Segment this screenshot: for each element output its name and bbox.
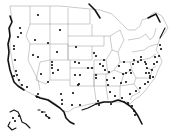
location-marker — [87, 67, 89, 69]
location-marker — [146, 67, 148, 69]
location-marker — [156, 61, 158, 63]
location-marker — [71, 104, 73, 106]
location-marker — [103, 59, 105, 61]
location-marker — [122, 73, 124, 75]
location-marker — [32, 54, 34, 56]
location-marker — [18, 115, 20, 117]
location-marker — [40, 73, 42, 75]
location-marker — [144, 83, 146, 85]
location-marker — [51, 67, 53, 69]
location-marker — [47, 81, 49, 83]
location-marker — [130, 72, 132, 74]
location-marker — [160, 48, 162, 50]
location-marker — [34, 39, 36, 41]
location-marker — [17, 36, 19, 38]
location-marker — [144, 61, 146, 63]
location-marker — [18, 79, 20, 81]
location-marker — [104, 69, 106, 71]
location-marker — [97, 100, 99, 102]
location-marker — [59, 29, 61, 31]
location-marker — [12, 117, 14, 119]
location-marker — [132, 63, 134, 65]
location-marker — [48, 117, 50, 119]
location-marker — [60, 93, 62, 95]
location-marker — [159, 44, 161, 46]
location-marker — [147, 81, 149, 83]
location-marker — [74, 61, 76, 63]
location-marker — [47, 42, 49, 44]
location-marker — [140, 56, 142, 58]
location-marker — [133, 110, 135, 112]
location-marker — [72, 92, 74, 94]
location-marker — [110, 103, 112, 105]
location-marker — [148, 72, 150, 74]
location-marker — [37, 14, 39, 16]
location-marker — [121, 97, 123, 99]
location-marker — [52, 72, 54, 74]
location-marker — [154, 56, 156, 58]
location-marker — [79, 74, 81, 76]
location-marker — [149, 77, 151, 79]
location-marker — [51, 64, 53, 66]
location-marker — [14, 59, 16, 61]
us-map — [0, 0, 172, 136]
location-marker — [134, 114, 136, 116]
location-marker — [75, 46, 77, 48]
location-marker — [13, 48, 15, 50]
location-marker — [151, 69, 153, 71]
location-marker — [152, 76, 154, 78]
location-marker — [26, 86, 28, 88]
location-marker — [131, 105, 133, 107]
location-marker — [41, 111, 43, 113]
location-marker — [56, 51, 58, 53]
location-marker — [129, 69, 131, 71]
location-marker — [91, 67, 93, 69]
location-marker — [125, 81, 127, 83]
location-marker — [95, 74, 97, 76]
location-marker — [149, 75, 151, 77]
location-marker — [13, 45, 15, 47]
location-marker — [36, 96, 38, 98]
location-marker — [127, 102, 129, 104]
location-marker — [120, 82, 122, 84]
location-marker — [93, 52, 95, 54]
location-marker — [16, 74, 18, 76]
location-marker — [140, 59, 142, 61]
location-marker — [129, 93, 131, 95]
location-marker — [123, 61, 125, 63]
location-marker — [37, 93, 39, 95]
location-marker — [158, 55, 160, 57]
location-marker — [153, 63, 155, 65]
location-marker — [108, 71, 110, 73]
location-marker — [14, 120, 16, 122]
location-marker — [61, 103, 63, 105]
location-marker — [95, 77, 97, 79]
location-marker — [99, 63, 101, 65]
location-marker — [98, 104, 100, 106]
location-marker — [95, 55, 97, 57]
location-marker — [139, 87, 141, 89]
location-marker — [20, 32, 22, 34]
location-marker — [113, 77, 115, 79]
location-marker — [145, 63, 147, 65]
location-marker — [114, 95, 116, 97]
location-marker — [79, 104, 81, 106]
location-marker — [51, 61, 53, 63]
location-marker — [37, 56, 39, 58]
location-marker — [107, 84, 109, 86]
location-marker — [19, 27, 21, 29]
location-marker — [78, 62, 80, 64]
location-marker — [15, 70, 17, 72]
location-marker — [145, 72, 147, 74]
location-marker — [21, 84, 23, 86]
location-marker — [109, 91, 111, 93]
location-marker — [61, 99, 63, 101]
location-marker — [118, 65, 120, 67]
location-marker — [106, 79, 108, 81]
location-marker — [78, 83, 80, 85]
location-marker — [45, 114, 47, 116]
state-borders — [10, 6, 168, 112]
location-marker — [137, 61, 139, 63]
location-marker — [125, 72, 127, 74]
location-marker — [102, 65, 104, 67]
